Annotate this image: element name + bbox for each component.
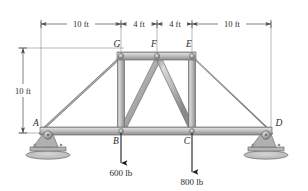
node-label-F: F [150, 39, 157, 49]
joint-pin-E [189, 53, 194, 58]
support-A-bolt-left [34, 144, 37, 147]
load-arrows [121, 133, 192, 172]
truss-members [39, 52, 273, 135]
node-label-E: E [185, 39, 192, 49]
truss-figure: 10 ft 4 ft 4 ft 10 ft 10 ft [0, 0, 308, 191]
truss-diagram: 10 ft 4 ft 4 ft 10 ft 10 ft [0, 0, 308, 191]
support-A-ground [26, 151, 70, 159]
support-A-pin-center [47, 134, 50, 137]
member-GB [118, 55, 125, 132]
dim-label-10ft-vertical: 10 ft [15, 86, 31, 96]
node-label-C: C [184, 136, 191, 146]
joint-pin-B [119, 129, 124, 134]
load-label-600lb: 600 lb [110, 168, 133, 178]
member-AG [39, 52, 125, 134]
member-ED [188, 52, 273, 134]
support-A-bolt-right [60, 144, 63, 147]
joint-pin-G [118, 53, 123, 58]
joint-pin-C [190, 129, 195, 134]
support-D-ground [244, 151, 288, 159]
member-BF [120, 59, 161, 129]
support-D-bolt-left [252, 144, 255, 147]
support-A-baseplate [30, 147, 66, 151]
vertical-dimension-label: 10 ft [9, 84, 38, 97]
load-label-800lb: 800 lb [181, 177, 204, 187]
dim-label-4ft-a: 4 ft [133, 19, 145, 29]
node-label-A: A [32, 118, 39, 128]
support-D-baseplate [248, 147, 284, 151]
dim-label-4ft-b: 4 ft [169, 19, 181, 29]
member-EC [189, 55, 196, 132]
member-bottom-chord-AD [40, 127, 272, 135]
node-label-D: D [275, 118, 283, 128]
dim-label-10ft-left: 10 ft [73, 19, 89, 29]
support-D-pin-center [265, 134, 268, 137]
node-label-B: B [113, 136, 119, 146]
dim-label-10ft-right: 10 ft [224, 19, 240, 29]
support-D-bolt-right [278, 144, 281, 147]
joint-pin-F [154, 53, 159, 58]
node-label-G: G [114, 39, 121, 49]
